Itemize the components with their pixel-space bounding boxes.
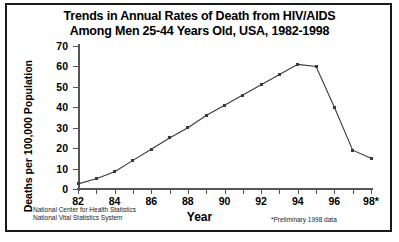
data-point-marker [351, 149, 354, 152]
x-axis-tick [316, 189, 317, 194]
y-axis-tick-label: 30 [42, 123, 68, 133]
data-point-marker [315, 65, 318, 68]
x-axis-tick [225, 189, 226, 194]
x-axis-tick [334, 189, 335, 194]
x-axis-tick [188, 189, 189, 194]
x-axis-tick [78, 189, 79, 194]
y-axis-label: Deaths per 100,000 Population [22, 60, 34, 212]
data-point-marker [278, 73, 281, 76]
y-axis-tick [73, 107, 78, 108]
y-axis-tick-label: 60 [42, 61, 68, 71]
y-axis-tick [73, 169, 78, 170]
y-axis-tick [73, 87, 78, 88]
y-axis-tick-label: 0 [42, 184, 68, 194]
x-axis-tick [298, 189, 299, 194]
x-axis-tick [371, 189, 372, 194]
x-axis-tick-label: 90 [210, 196, 240, 207]
x-axis-tick [115, 189, 116, 194]
data-point-marker [150, 148, 153, 151]
y-axis-tick-label: 40 [42, 102, 68, 112]
x-axis-tick [353, 189, 354, 194]
x-axis-tick [96, 189, 97, 194]
x-axis-tick-label: 96 [319, 196, 349, 207]
y-axis-tick [73, 46, 78, 47]
data-point-marker [370, 157, 373, 160]
x-axis-tick [170, 189, 171, 194]
x-axis-tick [206, 189, 207, 194]
chart-title: Trends in Annual Rates of Death from HIV… [0, 9, 399, 39]
x-axis-tick [261, 189, 262, 194]
x-axis-tick-label: 88 [173, 196, 203, 207]
x-axis-tick [279, 189, 280, 194]
footnote: *Preliminary 1998 data [271, 216, 337, 223]
data-point-marker [241, 94, 244, 97]
y-axis-tick-label: 50 [42, 82, 68, 92]
figure: Trends in Annual Rates of Death from HIV… [0, 0, 399, 242]
x-axis-tick-label: 94 [283, 196, 313, 207]
y-axis-tick-label: 20 [42, 143, 68, 153]
x-axis-tick-label: 86 [136, 196, 166, 207]
chart-title-line-2: Among Men 25-44 Years Old, USA, 1982-199… [0, 24, 399, 39]
y-axis-tick [73, 66, 78, 67]
plot-area: 706050403020100828486889092949698* [78, 46, 371, 189]
source-line-2: National Vital Statistics System [33, 214, 136, 222]
data-point-marker [260, 83, 263, 86]
source-note: National Center for Health Statistics Na… [33, 206, 136, 222]
x-axis-tick [133, 189, 134, 194]
data-point-marker [186, 126, 189, 129]
data-point-marker [113, 170, 116, 173]
chart-title-line-1: Trends in Annual Rates of Death from HIV… [0, 9, 399, 24]
y-axis-tick [73, 128, 78, 129]
data-point-marker [168, 136, 171, 139]
data-point-marker [333, 106, 336, 109]
x-axis-tick-label: 98* [356, 196, 386, 207]
data-point-marker [131, 159, 134, 162]
data-point-marker [205, 114, 208, 117]
x-axis-tick [151, 189, 152, 194]
y-axis-tick-label: 70 [42, 41, 68, 51]
y-axis-tick [73, 148, 78, 149]
y-axis-tick-label: 10 [42, 164, 68, 174]
data-point-marker [223, 104, 226, 107]
data-point-marker [77, 182, 80, 185]
source-line-1: National Center for Health Statistics [33, 206, 136, 214]
data-point-marker [296, 63, 299, 66]
x-axis-tick-label: 92 [246, 196, 276, 207]
x-axis-tick [243, 189, 244, 194]
data-point-marker [95, 177, 98, 180]
